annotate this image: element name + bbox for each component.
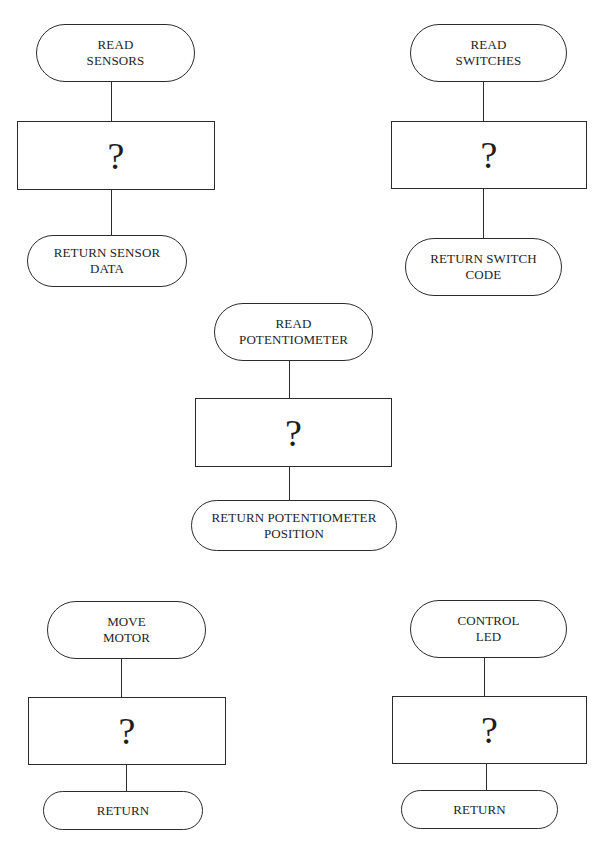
end-label: RETURN [453, 802, 506, 818]
process-box-read-potentiometer: ? [195, 398, 392, 467]
connector-line [121, 659, 122, 697]
connector-line [486, 764, 487, 790]
start-terminal-read-switches: READ SWITCHES [410, 24, 567, 82]
start-label: READ SWITCHES [456, 37, 522, 69]
start-terminal-read-sensors: READ SENSORS [36, 24, 195, 82]
process-placeholder: ? [108, 137, 125, 175]
end-terminal-read-potentiometer: RETURN POTENTIOMETER POSITION [191, 500, 397, 551]
process-placeholder: ? [481, 136, 498, 174]
end-label: RETURN SENSOR DATA [54, 245, 160, 277]
connector-line [483, 189, 484, 238]
connector-line [126, 765, 127, 791]
end-label: RETURN SWITCH CODE [430, 251, 536, 283]
process-box-read-switches: ? [391, 121, 587, 189]
end-terminal-move-motor: RETURN [43, 791, 203, 830]
start-label: READ SENSORS [87, 37, 145, 69]
end-terminal-read-sensors: RETURN SENSOR DATA [27, 235, 187, 287]
process-placeholder: ? [481, 711, 498, 749]
end-label: RETURN [97, 803, 150, 819]
start-label: READ POTENTIOMETER [239, 316, 348, 348]
end-terminal-read-switches: RETURN SWITCH CODE [405, 238, 562, 296]
connector-line [484, 658, 485, 696]
start-terminal-control-led: CONTROL LED [410, 600, 567, 658]
end-label: RETURN POTENTIOMETER POSITION [212, 510, 377, 542]
process-box-move-motor: ? [28, 697, 226, 765]
connector-line [289, 361, 290, 399]
end-terminal-control-led: RETURN [401, 790, 558, 829]
start-label: MOVE MOTOR [103, 614, 150, 646]
start-terminal-read-potentiometer: READ POTENTIOMETER [214, 303, 373, 361]
connector-line [289, 467, 290, 500]
process-placeholder: ? [119, 712, 136, 750]
connector-line [111, 82, 112, 121]
process-box-control-led: ? [392, 696, 587, 764]
start-terminal-move-motor: MOVE MOTOR [47, 601, 206, 659]
connector-line [111, 190, 112, 235]
connector-line [483, 82, 484, 121]
process-placeholder: ? [285, 414, 302, 452]
process-box-read-sensors: ? [17, 121, 215, 190]
start-label: CONTROL LED [457, 613, 519, 645]
